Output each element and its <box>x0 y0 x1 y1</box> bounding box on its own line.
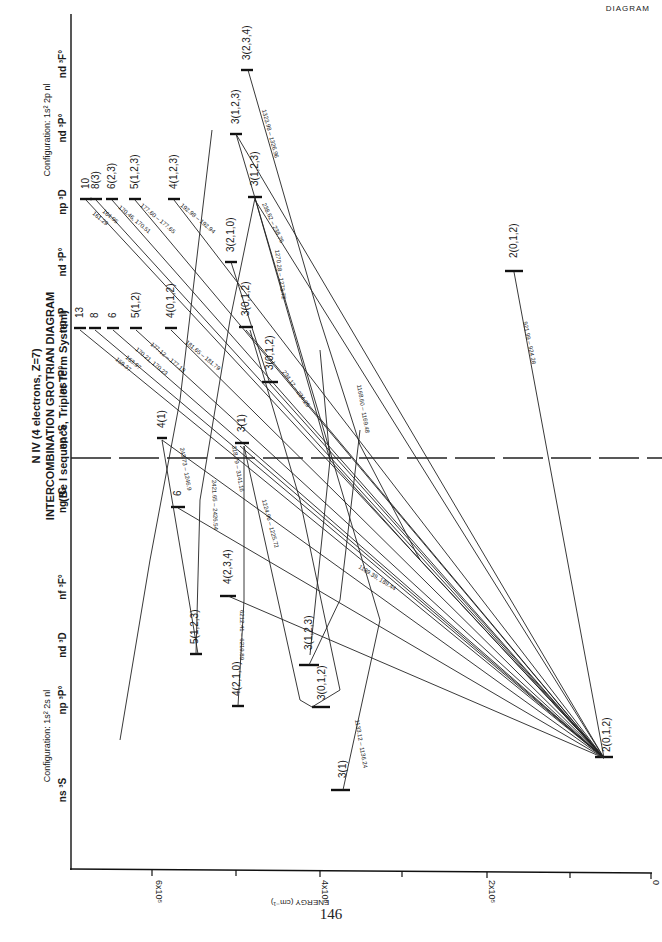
term-nf3Fo: nf ³F° <box>57 574 68 600</box>
term-ns3S: ns ³S <box>57 777 68 802</box>
term-ns3Po: ns ³P° <box>57 366 68 394</box>
svg-text:177.12 – 177.18: 177.12 – 177.18 <box>149 341 187 374</box>
term-column-labels: ns ³S np ³P° nd ³D nf ³F° ng ³G np ³S ns… <box>57 50 68 802</box>
term-nd3Po-a: nd ³P° <box>57 248 68 277</box>
term-np3P: np ³P <box>57 307 68 332</box>
title-line1: N IV (4 electrons, Z=7) <box>30 348 42 464</box>
svg-text:5(1,2,3): 5(1,2,3) <box>189 610 200 644</box>
svg-text:6212.41 – 6219.89: 6212.41 – 6219.89 <box>239 610 245 661</box>
config-label-2snl: Configuration: 1s² 2s nl <box>42 690 52 783</box>
svg-text:238.62 – 238.76: 238.62 – 238.76 <box>261 202 285 244</box>
term-np3D: np ³D <box>57 189 68 215</box>
tick-2e5: 2x10⁵ <box>487 880 497 904</box>
svg-text:5(1,2,3): 5(1,2,3) <box>129 155 140 189</box>
svg-text:1168.60 – 1169.48: 1168.60 – 1169.48 <box>356 384 371 434</box>
svg-text:6(2,3): 6(2,3) <box>106 163 117 189</box>
svg-text:1224.96 – 1225.72: 1224.96 – 1225.72 <box>261 499 280 550</box>
svg-text:5(1,2): 5(1,2) <box>130 292 141 318</box>
term-nd3Po-b: nd ³P° <box>57 114 68 143</box>
svg-text:13: 13 <box>74 306 85 318</box>
svg-text:3(2,3,4): 3(2,3,4) <box>241 26 252 60</box>
svg-text:3(1,2,3): 3(1,2,3) <box>230 90 241 124</box>
tick-0: 0 <box>651 880 661 885</box>
transition-lines <box>80 70 604 790</box>
svg-text:1133.12 – 1136.24: 1133.12 – 1136.24 <box>354 719 369 769</box>
page-number: 146 <box>0 906 662 923</box>
svg-text:3(2,1,0): 3(2,1,0) <box>225 218 236 252</box>
title-line2: INTERCOMBINATION GROTRIAN DIAGRAM <box>44 292 56 520</box>
svg-text:2(0,1,2): 2(0,1,2) <box>601 718 612 752</box>
svg-text:4(1,2,3): 4(1,2,3) <box>168 155 179 189</box>
svg-text:8: 8 <box>89 312 100 318</box>
title-line3: (Be I sequence, Triplet Term System) <box>57 310 69 502</box>
svg-text:4(1): 4(1) <box>156 410 167 428</box>
level-labels: 2(0,1,2) 3(1) 3(0,1,2) 4(2,1,0) 3(1,2,3)… <box>74 26 612 778</box>
svg-text:8(3): 8(3) <box>90 171 101 189</box>
energy-axis-labels: 6x10⁵ 4x10⁵ 2x10⁵ 0 ENERGY (cm⁻¹) <box>154 880 661 907</box>
energy-axis <box>70 869 652 873</box>
svg-text:921.99 – 924.28: 921.99 – 924.28 <box>522 321 537 365</box>
svg-text:1270.28 – 1273.72: 1270.28 – 1273.72 <box>274 249 287 300</box>
term-np3S: np ³S <box>57 424 68 449</box>
svg-text:3(0,1,2): 3(0,1,2) <box>240 282 251 316</box>
svg-text:1323.98 – 1326.96: 1323.98 – 1326.96 <box>261 109 280 160</box>
svg-text:4(2,3,4): 4(2,3,4) <box>222 550 233 584</box>
svg-text:2(0,1,2): 2(0,1,2) <box>508 224 519 258</box>
svg-text:318.79 – 3141.16: 318.79 – 3141.16 <box>231 445 245 493</box>
svg-text:181.65 – 181.79: 181.65 – 181.79 <box>184 339 222 372</box>
term-np3Po: np ³P° <box>57 686 68 715</box>
level-bars <box>74 70 613 790</box>
config-label-2pnl: Configuration: 1s² 2p nl <box>42 83 52 176</box>
tick-6e5: 6x10⁵ <box>154 880 164 904</box>
svg-text:192.98 – 192.94: 192.98 – 192.94 <box>179 202 217 235</box>
svg-text:6: 6 <box>107 312 118 318</box>
svg-text:4(0,1,2): 4(0,1,2) <box>165 284 176 318</box>
term-nd3D: nd ³D <box>57 632 68 658</box>
svg-text:234.12 – 234.25: 234.12 – 234.25 <box>281 369 311 409</box>
term-ng3G: ng ³G <box>57 487 68 513</box>
svg-text:6: 6 <box>172 490 183 496</box>
svg-text:243.73 – 1246.9: 243.73 – 1246.9 <box>179 447 193 491</box>
svg-text:3(1,2,3): 3(1,2,3) <box>249 152 260 186</box>
energy-axis-ticks <box>152 870 651 879</box>
term-nd3Fo: nd ³F° <box>57 50 68 78</box>
grotrian-diagram: N IV (4 electrons, Z=7) INTERCOMBINATION… <box>0 0 662 942</box>
svg-text:2421.65 – 2426.54: 2421.65 – 2426.54 <box>211 480 219 531</box>
svg-text:3(0,1,2): 3(0,1,2) <box>316 666 327 700</box>
